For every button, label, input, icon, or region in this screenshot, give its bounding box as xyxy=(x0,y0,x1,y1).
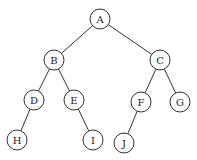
edge-a-c xyxy=(108,25,151,55)
edge-e-i xyxy=(78,109,88,131)
node-label: G xyxy=(176,97,184,108)
tree-node-e: E xyxy=(64,90,84,110)
tree-node-j: J xyxy=(114,133,134,153)
tree-node-g: G xyxy=(170,92,190,112)
node-label: I xyxy=(91,135,95,146)
tree-node-h: H xyxy=(7,130,27,150)
node-label: C xyxy=(156,55,164,66)
node-label: A xyxy=(95,14,104,25)
node-label: H xyxy=(13,135,22,146)
node-label: D xyxy=(30,95,38,106)
tree-nodes: ABCDEFGHIJ xyxy=(7,9,190,153)
binary-tree-diagram: ABCDEFGHIJ xyxy=(0,0,197,160)
tree-node-i: I xyxy=(83,130,103,150)
node-label: B xyxy=(50,55,57,66)
tree-node-c: C xyxy=(150,50,170,70)
tree-node-b: B xyxy=(44,50,64,70)
tree-node-a: A xyxy=(90,9,110,29)
tree-node-d: D xyxy=(24,90,44,110)
edge-c-f xyxy=(145,69,156,93)
edge-b-e xyxy=(58,69,69,91)
edge-d-h xyxy=(21,109,30,131)
edge-c-g xyxy=(164,69,175,93)
tree-node-f: F xyxy=(131,92,151,112)
edge-f-j xyxy=(128,111,137,134)
node-label: F xyxy=(138,97,145,108)
node-label: E xyxy=(70,95,77,106)
node-label: J xyxy=(121,138,126,149)
edge-b-d xyxy=(38,69,49,91)
tree-edges xyxy=(21,25,176,134)
edge-a-b xyxy=(61,26,92,54)
